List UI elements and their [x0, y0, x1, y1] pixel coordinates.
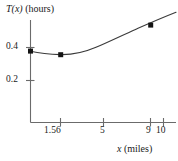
y-axis-argument: (x)	[12, 3, 23, 14]
chart-container: T(x) (hours) x (miles) 0.4 0.2 1.56 5 9 …	[0, 0, 178, 161]
x-axis-tick-label: 1.56	[44, 126, 61, 136]
y-axis-tick-label: 0.4	[6, 42, 18, 52]
x-axis-tick-label: 10	[156, 126, 166, 136]
data-point-marker	[28, 49, 33, 54]
y-axis-unit: (hours)	[23, 3, 54, 14]
plot-area	[0, 0, 178, 161]
x-axis-unit: (miles)	[121, 143, 152, 154]
x-axis-tick-label: 9	[146, 126, 151, 136]
x-axis-tick-label: 5	[100, 126, 105, 136]
data-curve	[31, 12, 177, 54]
x-axis-title: x (miles)	[117, 144, 152, 154]
data-point-marker	[148, 23, 153, 28]
y-axis-title: T(x) (hours)	[6, 4, 54, 14]
y-axis-tick-label: 0.2	[6, 75, 18, 85]
data-point-marker	[58, 52, 63, 57]
